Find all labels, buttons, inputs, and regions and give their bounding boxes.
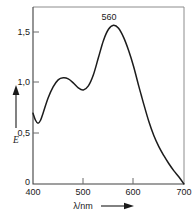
y-tick-label-0: 0 bbox=[25, 177, 30, 187]
y-tick-label-1: 0,5 bbox=[17, 128, 30, 138]
x-tick-label-400: 400 bbox=[25, 187, 40, 197]
x-tick-label-600: 600 bbox=[125, 187, 140, 197]
peak-annotation-label: 560 bbox=[101, 12, 116, 22]
x-tick-label-700: 700 bbox=[176, 187, 191, 197]
y-tick-label-3: 1,5 bbox=[17, 27, 30, 37]
y-axis-title: E bbox=[12, 135, 19, 145]
x-tick-label-500: 500 bbox=[75, 187, 90, 197]
y-tick-label-2: 1,0 bbox=[17, 77, 30, 87]
absorption-spectrum-chart: 0 0,5 1,0 1,5 400 500 600 700 E λ/nm 560 bbox=[0, 0, 196, 221]
x-axis-title: λ/nm bbox=[73, 201, 93, 211]
